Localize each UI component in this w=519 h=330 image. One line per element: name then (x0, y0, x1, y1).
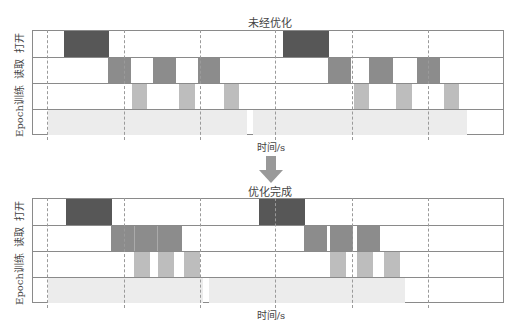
train-block (396, 84, 412, 109)
train-block (444, 84, 459, 109)
read-block (134, 226, 157, 251)
row-label-epoch: Epoch (14, 101, 26, 141)
epoch-block (253, 110, 467, 135)
dashed-gridline (275, 198, 276, 308)
dashed-gridline (428, 198, 429, 308)
top-timeline-panel (32, 30, 504, 135)
epoch-block (48, 278, 203, 303)
top-row-epoch (33, 109, 503, 135)
top-row-train (33, 83, 503, 109)
open-block (283, 31, 329, 57)
dashed-gridline (352, 30, 353, 140)
bottom-timeline-panel (32, 198, 504, 303)
dashed-gridline (47, 198, 48, 308)
bottom-panel-title: 优化完成 (0, 183, 519, 199)
dashed-gridline (47, 30, 48, 140)
open-block (64, 31, 109, 57)
top-x-axis-label: 时间/s (0, 139, 519, 154)
read-block (357, 226, 380, 251)
dashed-gridline (352, 198, 353, 308)
dashed-gridline (124, 30, 125, 140)
read-block (153, 58, 176, 83)
read-block (330, 226, 353, 251)
train-block (132, 84, 147, 109)
dashed-gridline (428, 30, 429, 140)
top-row-open (33, 31, 503, 57)
epoch-block (48, 110, 247, 135)
train-block (330, 252, 346, 277)
train-block (134, 252, 150, 277)
train-block (357, 252, 373, 277)
bottom-x-axis-label: 时间/s (0, 307, 519, 322)
read-block (111, 226, 134, 251)
train-block (158, 252, 174, 277)
open-block (66, 199, 112, 225)
row-label-epoch: Epoch (14, 269, 26, 309)
read-block (369, 58, 393, 83)
top-row-read (33, 57, 503, 83)
dashed-gridline (200, 198, 201, 308)
bottom-row-train (33, 251, 503, 277)
train-block (354, 84, 369, 109)
down-arrow-icon (259, 156, 283, 184)
train-block (179, 84, 195, 109)
read-block (108, 58, 131, 83)
bottom-row-epoch (33, 277, 503, 303)
open-block (259, 199, 305, 225)
train-block (384, 252, 400, 277)
read-block (304, 226, 327, 251)
bottom-row-open (33, 199, 503, 225)
dashed-gridline (124, 198, 125, 308)
read-block (328, 58, 351, 83)
top-panel-title: 未经优化 (0, 14, 519, 30)
train-block (184, 252, 200, 277)
dashed-gridline (275, 30, 276, 140)
dashed-gridline (200, 30, 201, 140)
train-block (224, 84, 239, 109)
read-block (198, 58, 220, 83)
epoch-block (209, 278, 405, 303)
read-block (157, 226, 182, 251)
bottom-row-read (33, 225, 503, 251)
